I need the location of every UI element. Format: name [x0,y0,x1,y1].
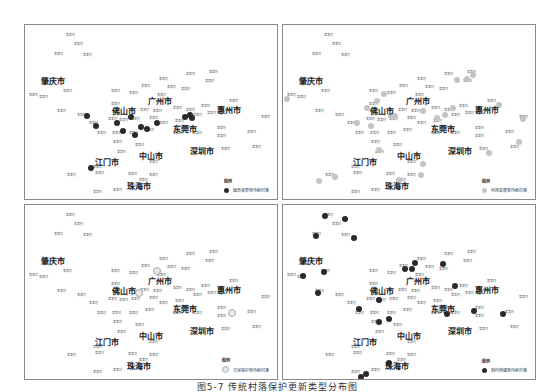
village-label: 某某村 [135,323,144,327]
village-marker [434,115,440,121]
village-label: 某某村 [153,289,162,293]
village-marker [471,308,477,314]
village-label: 某某村 [74,42,83,46]
village-label: 某某村 [113,368,122,372]
village-label: 某某村 [93,190,102,194]
village-label: 某某村 [129,311,138,315]
village-marker [442,112,448,118]
village-label: 某某村 [335,113,344,117]
village-label: 某某村 [353,351,362,355]
village-marker [228,309,236,317]
village-label: 某某村 [140,108,149,112]
village-label: 某某村 [444,252,453,256]
village-label: 某某村 [89,301,98,305]
city-label: 佛山市 [370,105,395,116]
village-marker [189,115,195,121]
city-label: 惠州市 [217,284,242,295]
city-label: 肇庆市 [41,75,66,86]
legend-title: 图例 [224,178,269,184]
village-marker [381,91,387,97]
village-label: 某某村 [209,70,218,74]
city-label: 江门市 [95,336,120,347]
legend-label: 融合保育型传统村落 [233,187,269,193]
city-label: 中山市 [139,330,164,341]
village-label: 某某村 [117,150,126,154]
village-marker [376,147,382,153]
village-label: 某某村 [393,143,402,147]
village-marker [315,290,321,296]
village-label: 某某村 [332,222,341,226]
village-label: 某某村 [201,104,210,108]
village-label: 某某村 [129,91,138,95]
village-label: 某某村 [505,130,514,134]
village-label: 某某村 [135,143,144,147]
village-label: 某某村 [217,306,226,310]
village-marker [520,116,526,122]
village-marker [313,233,319,239]
village-label: 某某村 [387,91,396,95]
village-label: 某某村 [128,352,137,356]
village-marker [412,260,418,266]
city-label: 广州市 [406,95,431,106]
map-legend: 图例日常保护型传统村落 [222,357,269,373]
village-label: 某某村 [403,308,412,312]
village-label: 某某村 [387,131,396,135]
village-label: 某某村 [407,353,416,357]
village-label: 某某村 [324,33,333,37]
village-label: 某某村 [370,131,379,135]
village-label: 某某村 [205,79,214,83]
village-marker [93,123,99,129]
legend-dot-icon [222,366,229,373]
village-label: 某某村 [97,131,106,135]
village-label: 某某村 [97,311,106,315]
village-marker [120,128,126,134]
village-marker [332,174,338,180]
village-marker [356,306,362,312]
village-marker [376,319,382,325]
village-label: 某某村 [111,269,120,273]
legend-dot-icon [224,188,229,193]
village-marker [454,77,460,83]
village-label: 某某村 [29,93,38,97]
village-label: 某某村 [54,232,63,236]
village-label: 某某村 [407,160,416,164]
city-label: 广州市 [148,95,173,106]
village-label: 某某村 [386,172,395,176]
village-marker [420,161,426,167]
village-label: 某某村 [217,314,226,318]
village-marker [500,311,506,317]
village-label: 某某村 [167,265,176,269]
village-label: 某某村 [205,259,214,263]
village-label: 某某村 [113,188,122,192]
village-label: 某某村 [221,147,230,151]
legend-title: 图例 [482,178,527,184]
city-label: 珠海市 [385,180,410,191]
village-label: 某某村 [321,89,330,93]
village-label: 某某村 [431,106,440,110]
village-label: 某某村 [355,131,364,135]
village-label: 某某村 [375,330,384,334]
city-label: 深圳市 [190,325,215,336]
village-label: 某某村 [351,190,360,194]
village-label: 某某村 [93,370,102,374]
village-label: 某某村 [57,289,66,293]
village-label: 某某村 [67,173,76,177]
map-panel-routine-protection: 某某村某某村某某村某某村某某村某某村某某村某某村某某村某某村某某村某某村某某村某… [24,204,278,380]
legend-row: 制约修缮型传统村落 [482,367,527,373]
village-label: 某某村 [444,288,453,292]
village-label: 某某村 [221,327,230,331]
village-label: 某某村 [67,353,76,357]
village-label: 某某村 [465,111,474,115]
village-label: 某某村 [159,301,168,305]
village-label: 某某村 [112,311,121,315]
legend-label: 制约修缮型传统村落 [491,367,527,373]
village-label: 某某村 [335,293,344,297]
village-label: 某某村 [149,353,158,357]
city-label: 珠海市 [127,360,152,371]
village-label: 某某村 [371,188,380,192]
legend-dot-icon [482,188,487,193]
village-label: 某某村 [411,109,420,113]
village-label: 某某村 [77,293,86,297]
village-label: 某某村 [465,291,474,295]
village-label: 某某村 [181,87,190,91]
